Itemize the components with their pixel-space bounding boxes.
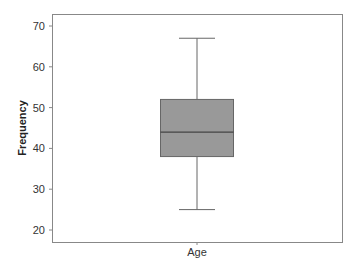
y-tick-label: 70: [33, 20, 45, 32]
y-tick-label: 40: [33, 142, 45, 154]
y-tick-label: 30: [33, 183, 45, 195]
x-category-label: Age: [187, 246, 207, 258]
boxplot-chart: 203040506070 Frequency Age: [0, 0, 359, 267]
iqr-box: [161, 99, 234, 156]
y-tick-label: 60: [33, 61, 45, 73]
y-tick-label: 20: [33, 224, 45, 236]
y-axis-title: Frequency: [16, 99, 28, 156]
y-tick-label: 50: [33, 102, 45, 114]
y-axis: 203040506070: [33, 20, 53, 236]
